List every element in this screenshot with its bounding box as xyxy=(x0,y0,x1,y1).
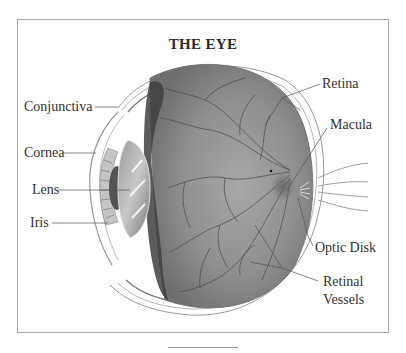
separator-line xyxy=(168,347,238,348)
label-iris: Iris xyxy=(30,215,49,231)
label-conjunctiva: Conjunctiva xyxy=(24,99,92,115)
label-cornea: Cornea xyxy=(24,145,64,161)
label-macula: Macula xyxy=(330,117,372,133)
label-retinal-vessels-1: Retinal xyxy=(323,274,363,290)
label-retina: Retina xyxy=(322,76,359,92)
macula xyxy=(271,173,295,201)
label-lens: Lens xyxy=(32,182,59,198)
label-retinal-vessels-2: Vessels xyxy=(323,292,364,308)
fovea-dot xyxy=(270,170,273,173)
label-optic-disk: Optic Disk xyxy=(315,240,376,256)
optic-nerve xyxy=(318,163,368,211)
